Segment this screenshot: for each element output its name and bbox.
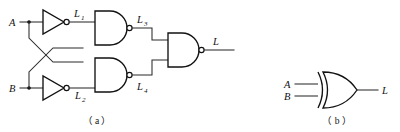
wire-b-to-nand-top — [29, 48, 83, 88]
panel-b: A B L （ b ） — [283, 72, 388, 126]
label-output-l: L — [212, 36, 219, 47]
caption-panel-a: （ a ） — [83, 115, 112, 126]
label-input-a: A — [8, 17, 16, 28]
nand-output-body — [168, 33, 199, 67]
wire-a-to-nand-bottom — [29, 22, 83, 62]
inverter-a-bubble — [64, 19, 69, 24]
label-node-l3-subscript: 3 — [143, 20, 148, 28]
inverter-a-body — [43, 10, 64, 34]
label-b-output-l: L — [381, 85, 388, 96]
nand-top-body — [95, 11, 127, 45]
caption-panel-b: （ b ） — [322, 115, 352, 126]
wire-l4 — [132, 60, 168, 75]
label-node-l2: L — [74, 90, 81, 101]
label-node-l2-subscript: 2 — [82, 96, 86, 104]
nand-output-bubble — [199, 47, 204, 52]
logic-circuit-figure: A B L 1 L 2 L 3 L 4 L （ a ） — [0, 0, 400, 132]
circuit-diagram-canvas: A B L 1 L 2 L 3 L 4 L （ a ） — [0, 0, 400, 132]
inverter-b-body — [43, 76, 64, 100]
label-node-l4: L — [136, 81, 143, 92]
label-input-b: B — [9, 83, 16, 94]
inverter-b-bubble — [64, 85, 69, 90]
label-b-input-a: A — [283, 79, 291, 90]
nand-top-bubble — [127, 25, 132, 30]
wire-l3 — [132, 28, 168, 40]
label-node-l4-subscript: 4 — [144, 87, 148, 95]
label-node-l1: L — [73, 8, 80, 19]
xor-gate-body — [323, 72, 357, 108]
label-b-input-b: B — [284, 91, 291, 102]
nand-bottom-bubble — [127, 72, 132, 77]
label-node-l1-subscript: 1 — [81, 14, 85, 22]
label-node-l3: L — [136, 14, 143, 25]
nand-bottom-body — [95, 58, 127, 92]
xor-gate-back-arc — [318, 72, 323, 108]
panel-a: A B L 1 L 2 L 3 L 4 L （ a ） — [8, 8, 234, 126]
